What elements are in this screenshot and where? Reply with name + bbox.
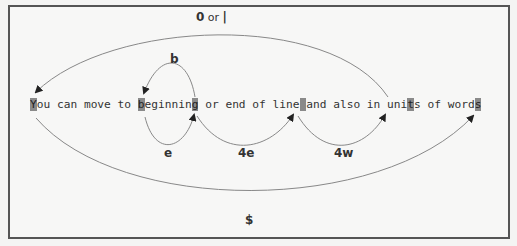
sentence-text: You can move to beginning or end of line… [30, 98, 481, 112]
label-b: b [170, 52, 179, 66]
arrow-e [145, 115, 194, 145]
label-or: or [204, 11, 222, 24]
sentence-segment: eginnin [145, 98, 192, 111]
sentence-segment: or end of line [198, 98, 299, 111]
label-zero-or-pipe: 0 or | [196, 10, 227, 24]
arrow-4e [197, 115, 293, 145]
label-4w: 4w [334, 146, 353, 160]
sentence-segment: and also in uni [306, 98, 407, 111]
label-dollar: $ [245, 213, 253, 227]
cursor-highlight: b [138, 98, 145, 111]
arrow-b [144, 63, 195, 97]
arrow-4w [298, 115, 385, 145]
arrow-zero-or-pipe [36, 35, 388, 97]
cursor-highlight: Y [30, 98, 37, 111]
label-e: e [164, 146, 172, 160]
label-pipe: | [223, 10, 227, 24]
arrow-dollar [36, 116, 473, 191]
cursor-highlight: s [475, 98, 482, 111]
sentence-segment: s of word [414, 98, 475, 111]
arrows-layer [0, 0, 517, 246]
sentence-segment: ou can move to [37, 98, 138, 111]
label-4e: 4e [238, 146, 255, 160]
